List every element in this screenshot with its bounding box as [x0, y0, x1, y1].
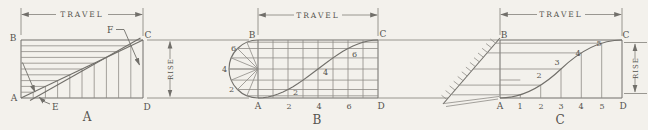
diagram-b-construction-grid — [229, 40, 378, 98]
diagram-b-corner-c-label: C — [380, 29, 387, 39]
diagram-canvas: TRAVEL E F B C A D A — [0, 0, 648, 130]
diagram-b-caption: B — [313, 113, 322, 127]
diagram-c-corner-b-label: B — [501, 30, 508, 40]
diagram-c-curve-tick-4: 4 — [575, 49, 580, 58]
diagram-a-corner-c-label: C — [145, 30, 152, 40]
diagram-c-bottom-tick-4: 4 — [578, 102, 583, 111]
diagram-c-corner-d-label: D — [619, 101, 626, 111]
diagram-b-bottom-ticks: 2 4 6 — [286, 102, 351, 111]
diagram-b-curve-tick-4: 4 — [323, 68, 328, 77]
diagram-c-curve-tick-2: 2 — [536, 71, 541, 80]
diagram-b-curve-tick-2: 2 — [293, 88, 298, 97]
diagram-c-curve-tick-5: 5 — [596, 39, 601, 48]
diagram-b-travel-dimension: TRAVEL — [258, 8, 378, 36]
diagram-b-curve-tick-6: 6 — [352, 50, 357, 59]
diagram-c-caption: C — [555, 113, 564, 127]
diagram-c-travel-label: TRAVEL — [539, 10, 583, 19]
diagram-a-corner-b-label: B — [10, 33, 17, 43]
diagram-a-point-f-label: F — [107, 25, 113, 35]
diagram-b-corner-b-label: B — [249, 30, 256, 40]
diagram-c-corner-a-label: A — [496, 101, 504, 111]
diagram-b-bottom-tick-6: 6 — [346, 102, 351, 111]
diagram-a-travel-label: TRAVEL — [60, 10, 104, 19]
diagram-c-bottom-ticks: 1 2 3 4 5 — [517, 102, 604, 111]
diagram-c-curve-ticks: 2 3 4 5 — [536, 39, 601, 80]
diagram-c-curve-tick-3: 3 — [554, 58, 559, 67]
diagram-c-bottom-tick-3: 3 — [558, 102, 563, 111]
diagram-a-annotations: E F — [23, 25, 140, 112]
diagram-c-bottom-tick-5: 5 — [599, 102, 604, 111]
diagram-a-corner-d-label: D — [143, 102, 150, 112]
rise-right-label: RISE — [632, 57, 640, 79]
diagram-c-incline — [442, 38, 501, 107]
rise-left-label: RISE — [167, 58, 175, 80]
diagram-a-corner-a-label: A — [10, 93, 18, 103]
cam-displacement-diagrams-figure: TRAVEL E F B C A D A — [0, 0, 648, 130]
diagram-a-caption: A — [82, 110, 92, 124]
diagram-c-corner-c-label: C — [623, 30, 630, 40]
diagram-c-transfer-lines — [444, 97, 499, 107]
rise-dimension-right: RISE — [624, 43, 647, 94]
diagram-c: TRAVEL 2 3 4 5 1 2 3 4 5 B — [378, 8, 630, 127]
diagram-b-travel-label: TRAVEL — [296, 11, 340, 20]
diagram-a-point-e-label: E — [52, 102, 59, 112]
diagram-a: TRAVEL E F B C A D A — [10, 8, 152, 124]
diagram-b-left-tick-2: 2 — [229, 85, 234, 94]
diagram-c-travel-dimension: TRAVEL — [500, 8, 622, 36]
diagram-b-bottom-tick-2: 2 — [286, 102, 291, 111]
diagram-b: TRAVEL 6 4 2 2 4 6 2 4 6 B — [222, 8, 387, 127]
diagram-c-bottom-tick-2: 2 — [538, 102, 543, 111]
diagram-c-bottom-tick-1: 1 — [517, 102, 522, 111]
diagram-b-left-tick-6: 6 — [231, 44, 236, 53]
diagram-b-corner-a-label: A — [254, 101, 262, 111]
diagram-b-corner-d-label: D — [377, 101, 384, 111]
diagram-b-bottom-tick-4: 4 — [316, 102, 321, 111]
diagram-b-left-tick-4: 4 — [222, 65, 227, 74]
